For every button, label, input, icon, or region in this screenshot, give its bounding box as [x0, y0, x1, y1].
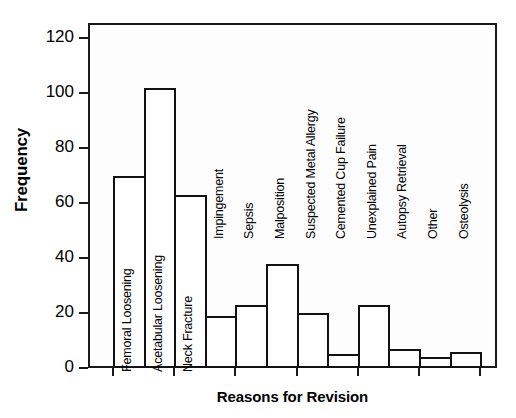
y-tick-label: 0	[65, 356, 74, 378]
y-tick-mark	[79, 367, 88, 369]
category-label: Unexplained Pain	[366, 144, 379, 239]
y-tick-label: 40	[55, 246, 74, 268]
category-label: Osteolysis	[458, 183, 471, 239]
category-label: Neck Fracture	[182, 296, 195, 372]
x-tick-mark	[357, 368, 359, 376]
x-tick-mark	[173, 368, 175, 376]
category-label: Autopsy Retrieval	[396, 144, 409, 239]
bar	[297, 313, 330, 368]
y-tick-mark	[79, 202, 88, 204]
x-tick-mark	[112, 368, 114, 376]
bar-chart-figure: Frequency 020406080100120 Femoral Loosen…	[0, 0, 516, 418]
y-tick-label: 20	[55, 301, 74, 323]
bar	[419, 357, 452, 368]
category-label: Femoral Loosening	[121, 268, 134, 372]
y-tick-label: 120	[46, 26, 74, 48]
x-tick-mark	[234, 368, 236, 376]
x-tick-mark	[418, 368, 420, 376]
category-label: Suspected Metal Allergy	[305, 109, 318, 239]
bar	[266, 264, 299, 369]
y-tick-label: 60	[55, 191, 74, 213]
category-label: Malposition	[274, 178, 287, 239]
category-label: Acetabular Loosening	[152, 255, 165, 372]
bar	[388, 349, 421, 368]
category-label: Sepsis	[243, 203, 256, 239]
x-tick-mark	[479, 368, 481, 376]
x-axis-title: Reasons for Revision	[88, 388, 497, 405]
bar	[205, 316, 238, 368]
bar	[235, 305, 268, 368]
y-tick-mark	[79, 257, 88, 259]
y-tick-mark	[79, 312, 88, 314]
category-label: Impingement	[213, 169, 226, 239]
bar	[327, 354, 360, 368]
y-axis-title: Frequency	[12, 115, 32, 225]
y-tick-mark	[79, 147, 88, 149]
category-label: Other	[427, 209, 440, 239]
y-tick-mark	[79, 37, 88, 39]
y-tick-label: 100	[46, 81, 74, 103]
bar	[450, 352, 483, 369]
bar	[358, 305, 391, 368]
y-tick-mark	[79, 92, 88, 94]
x-tick-mark	[296, 368, 298, 376]
y-tick-label: 80	[55, 136, 74, 158]
category-label: Cemented Cup Failure	[335, 117, 348, 239]
